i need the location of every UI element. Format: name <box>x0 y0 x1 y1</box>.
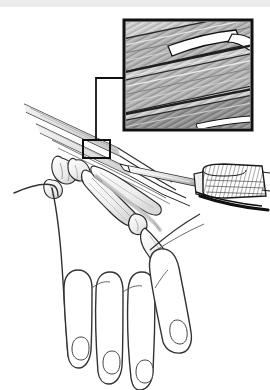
fingernail-index <box>72 337 89 360</box>
fingernail-middle <box>103 351 120 374</box>
fingernail-little <box>170 320 187 344</box>
medical-illustration <box>0 0 270 390</box>
magnified-tendon-inset <box>116 10 270 136</box>
fingernail-ring <box>136 360 153 383</box>
figure-root <box>0 0 270 390</box>
top-gray-band <box>0 0 270 7</box>
